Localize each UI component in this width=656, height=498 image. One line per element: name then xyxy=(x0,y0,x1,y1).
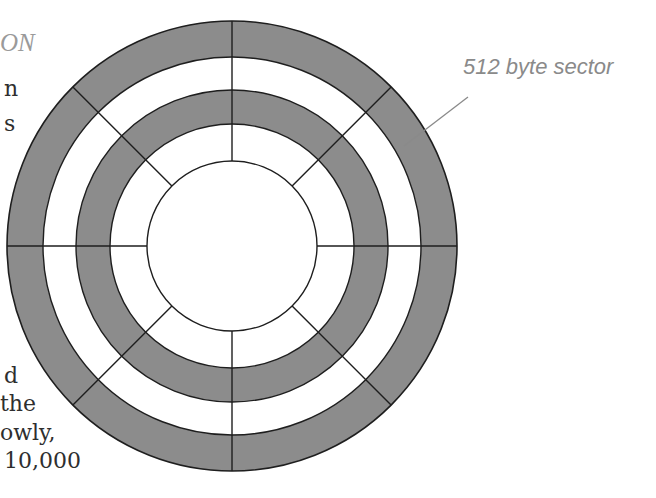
body-text-fragment: 10,000 xyxy=(4,450,81,472)
body-text-fragment: d xyxy=(4,365,18,387)
body-text-fragment: owly, xyxy=(0,422,56,444)
body-text-fragment: s xyxy=(4,113,15,135)
track-boundary-ring xyxy=(147,161,317,331)
section-heading-fragment: ON xyxy=(0,30,35,55)
sector-label: 512 byte sector xyxy=(463,56,613,78)
body-text-fragment: n xyxy=(4,78,18,100)
body-text-fragment: the xyxy=(0,393,36,415)
